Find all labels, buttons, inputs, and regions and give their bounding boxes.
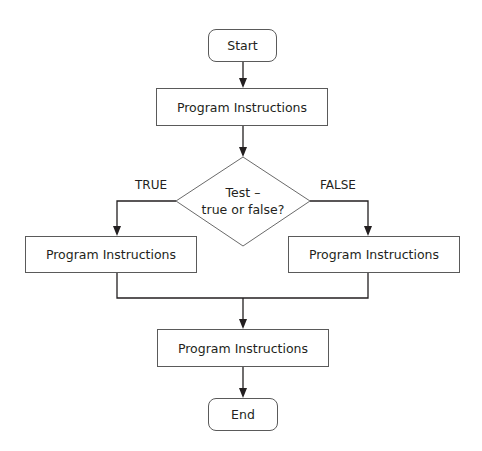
arrow-true-branch (117, 201, 176, 226)
connector-lines (0, 0, 482, 451)
end-node: End (208, 398, 278, 431)
true-branch-label: TRUE (135, 178, 167, 192)
decision-label: Test – true or false? (193, 184, 293, 218)
process-merge-label: Program Instructions (178, 341, 308, 356)
process-false-label: Program Instructions (309, 247, 439, 262)
process-1-label: Program Instructions (177, 100, 307, 115)
start-node: Start (208, 29, 277, 62)
decision-label-line1: Test – (193, 184, 293, 201)
start-label: Start (227, 38, 258, 53)
merge-line (117, 272, 368, 298)
process-true-label: Program Instructions (46, 247, 176, 262)
decision-label-line2: true or false? (193, 201, 293, 218)
end-label: End (231, 407, 255, 422)
arrow-false-branch (310, 201, 368, 226)
false-branch-label: FALSE (320, 178, 356, 192)
process-node-merge: Program Instructions (157, 329, 329, 367)
process-node-true: Program Instructions (25, 236, 197, 273)
process-node-false: Program Instructions (288, 236, 460, 273)
process-node-1: Program Instructions (156, 88, 328, 126)
